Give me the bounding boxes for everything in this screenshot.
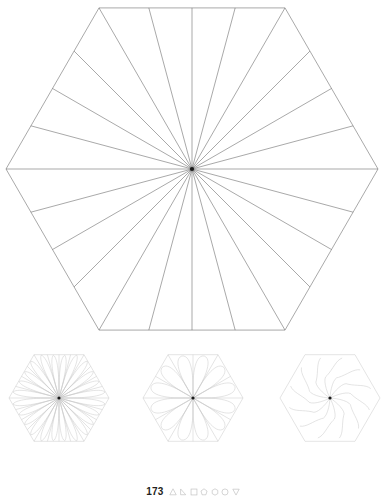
swirl-petal xyxy=(301,368,330,398)
small-hexagon-geometry-2 xyxy=(143,355,243,442)
petal xyxy=(59,361,87,398)
petal xyxy=(41,355,59,398)
petal xyxy=(193,398,225,430)
radial-division-line xyxy=(59,398,91,430)
triangle-icon xyxy=(169,488,177,496)
small-hexagon-geometry-3 xyxy=(280,355,380,442)
swirl-petal xyxy=(316,358,330,398)
swirl-petal xyxy=(330,393,369,410)
radial-division-line xyxy=(59,355,71,398)
footer-icon-strip xyxy=(169,488,240,496)
radial-division-line xyxy=(192,88,332,169)
petal xyxy=(19,398,59,415)
radial-division-line xyxy=(99,8,192,169)
radial-division-line xyxy=(27,398,59,430)
radial-division-line xyxy=(192,169,310,287)
radial-division-line xyxy=(192,126,353,169)
swirl-petal xyxy=(291,386,330,403)
radial-division-line xyxy=(192,51,310,169)
radial-division-line xyxy=(192,169,285,330)
radial-division-line xyxy=(31,126,192,169)
radial-division-line xyxy=(47,355,59,398)
square-icon xyxy=(190,488,198,496)
center-point xyxy=(191,396,194,399)
radial-division-line xyxy=(192,169,353,212)
page-number: 173 xyxy=(146,487,163,497)
petal xyxy=(59,398,93,424)
petal xyxy=(161,398,193,430)
circle-icon xyxy=(221,488,229,496)
scalene-triangle-icon xyxy=(179,488,187,496)
small-hexagon-figure-3 xyxy=(271,346,386,450)
radial-division-line xyxy=(193,376,231,398)
radial-division-line xyxy=(31,169,192,212)
petal xyxy=(31,361,59,398)
petal xyxy=(19,381,59,398)
center-point xyxy=(57,396,60,399)
radial-division-line xyxy=(59,398,71,441)
page-footer: 173 xyxy=(0,481,386,502)
swirl-petal xyxy=(290,398,330,412)
swirl-petal xyxy=(318,398,335,438)
swirl-petal xyxy=(325,358,342,398)
main-hexagon-figure xyxy=(0,0,386,345)
radial-division-line xyxy=(59,366,91,398)
petal xyxy=(25,398,59,424)
radial-division-line xyxy=(156,398,194,420)
petal xyxy=(59,372,93,398)
radial-division-line xyxy=(193,398,231,420)
radial-division-line xyxy=(192,169,332,250)
radial-division-line xyxy=(149,8,192,169)
petal xyxy=(193,366,225,398)
page-canvas: 173 xyxy=(0,0,386,502)
swirl-petal xyxy=(330,384,370,398)
radial-division-line xyxy=(74,51,192,169)
hexagon-icon xyxy=(211,488,219,496)
radial-division-line xyxy=(192,8,235,169)
radial-division-line xyxy=(149,169,192,330)
center-point xyxy=(328,396,331,399)
radial-division-line xyxy=(192,169,235,330)
petal xyxy=(25,372,59,398)
petal xyxy=(59,398,87,435)
petal xyxy=(31,398,59,435)
petal xyxy=(59,355,77,398)
radial-division-line xyxy=(99,169,192,330)
petal xyxy=(59,381,99,398)
small-hexagon-figure-1 xyxy=(0,346,118,450)
small-hexagon-geometry-1 xyxy=(9,355,109,442)
main-hexagon-geometry xyxy=(6,8,378,330)
radial-division-line xyxy=(192,8,285,169)
small-hexagon-figure-2 xyxy=(134,346,252,450)
radial-division-line xyxy=(74,169,192,287)
swirl-petal xyxy=(330,398,344,438)
radial-division-line xyxy=(156,376,194,398)
petal xyxy=(59,398,77,441)
petal xyxy=(59,398,99,415)
radial-division-line xyxy=(53,169,193,250)
petal xyxy=(161,366,193,398)
radial-division-line xyxy=(27,366,59,398)
petal xyxy=(41,398,59,441)
pentagon-icon xyxy=(200,488,208,496)
center-point xyxy=(190,167,194,171)
inverted-triangle-icon xyxy=(232,488,240,496)
radial-division-line xyxy=(47,398,59,441)
swirl-petal xyxy=(330,398,359,428)
radial-division-line xyxy=(53,88,193,169)
